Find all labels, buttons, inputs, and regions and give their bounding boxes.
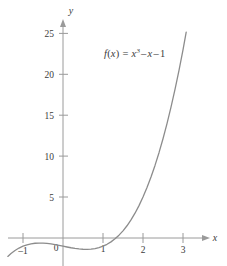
function-equation-label: f(x)=x3–x–1	[104, 48, 165, 59]
cubic-curve	[8, 32, 186, 256]
x-axis-arrow	[202, 235, 210, 241]
y-axis-arrow	[60, 19, 66, 27]
y-tick-label-15: 15	[45, 111, 55, 121]
y-tick-label-25: 25	[45, 29, 55, 39]
x-axis-label: x	[212, 232, 218, 243]
function-graph-figure: –1 0 1 2 3 5 10 15 20 25 x y f(x)=x3–x–1	[0, 0, 227, 266]
x-tick-labels: –1 0 1 2 3	[17, 243, 185, 256]
equation-minus-2: –	[152, 48, 159, 59]
x-tick-label-3: 3	[181, 245, 186, 255]
plot-canvas: –1 0 1 2 3 5 10 15 20 25 x y	[0, 0, 227, 266]
y-tick-labels: 5 10 15 20 25	[45, 29, 55, 203]
y-axis-label: y	[68, 5, 74, 16]
y-tick-label-5: 5	[49, 193, 54, 203]
equation-minus-1: –	[140, 48, 147, 59]
x-tick-label-2: 2	[141, 245, 146, 255]
equation-term3: 1	[160, 48, 165, 59]
equation-equals: =	[119, 48, 131, 59]
y-tick-label-20: 20	[45, 70, 55, 80]
y-tick-label-10: 10	[45, 152, 55, 162]
